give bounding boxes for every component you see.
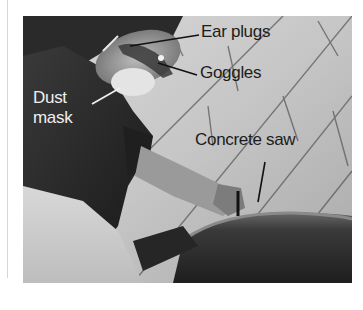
photo-illustration (23, 16, 352, 283)
page-margin-rule (7, 0, 8, 278)
label-ear-plugs: Ear plugs (201, 22, 270, 41)
safety-photo: Ear plugs Goggles Dust mask Concrete saw (23, 16, 352, 283)
label-concrete-saw: Concrete saw (195, 130, 295, 149)
dust-mask-shape (111, 68, 155, 96)
label-goggles: Goggles (200, 63, 261, 82)
label-dust-mask: Dust mask (33, 88, 93, 128)
